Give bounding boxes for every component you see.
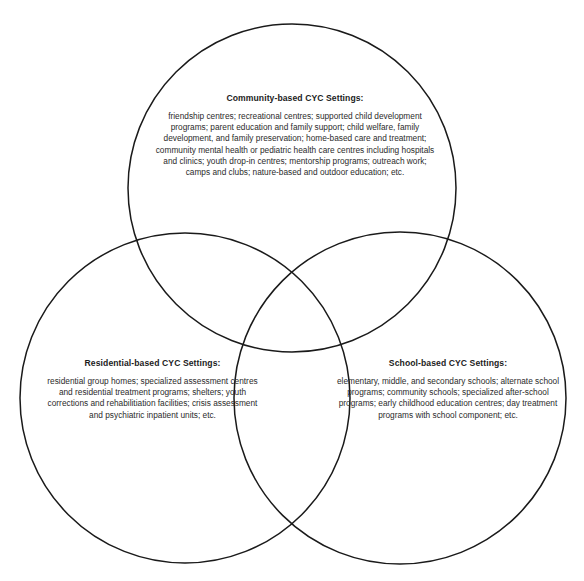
- school-settings-heading: School-based CYC Settings:: [330, 358, 566, 369]
- community-settings-heading: Community-based CYC Settings:: [152, 93, 438, 104]
- community-settings-label: Community-based CYC Settings: friendship…: [152, 93, 438, 178]
- venn-diagram: Community-based CYC Settings: friendship…: [0, 0, 584, 581]
- school-settings-label: School-based CYC Settings: elementary, m…: [330, 358, 566, 421]
- school-settings-body: elementary, middle, and secondary school…: [330, 376, 566, 421]
- residential-settings-heading: Residential-based CYC Settings:: [40, 358, 265, 369]
- community-circle-outline: [128, 24, 456, 352]
- residential-settings-body: residential group homes; specialized ass…: [40, 376, 265, 421]
- community-settings-body: friendship centres; recreational centres…: [152, 111, 438, 178]
- residential-settings-label: Residential-based CYC Settings: resident…: [40, 358, 265, 421]
- venn-circle-outlines: [0, 0, 584, 581]
